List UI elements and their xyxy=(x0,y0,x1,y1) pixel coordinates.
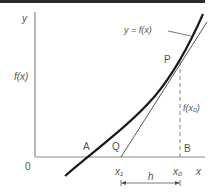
curve-label: y = f(x) xyxy=(123,25,152,35)
curve-label-leader xyxy=(168,31,191,36)
point-b-label: B xyxy=(184,143,191,154)
tangent-line xyxy=(121,22,207,157)
y-axis-label: y xyxy=(21,13,28,24)
h-arrow-right-icon xyxy=(175,181,180,185)
x1-label: x₁ xyxy=(114,166,123,177)
point-a-label: A xyxy=(83,141,90,152)
fx0-label: f(x₀) xyxy=(183,103,200,113)
h-arrow-left-icon xyxy=(121,181,126,185)
fx-axis-label: f(x) xyxy=(14,71,28,82)
origin-label: 0 xyxy=(25,161,31,172)
top-border-bar xyxy=(0,0,205,3)
x-axis-label: x xyxy=(195,166,202,177)
point-q-label: Q xyxy=(112,141,120,152)
newton-method-diagram: y f(x) y = f(x) P f(x₀) A Q B 0 x₁ x₀ x … xyxy=(0,0,215,193)
point-p-label: P xyxy=(164,54,171,65)
x0-label: x₀ xyxy=(172,166,182,177)
h-label: h xyxy=(148,171,154,182)
